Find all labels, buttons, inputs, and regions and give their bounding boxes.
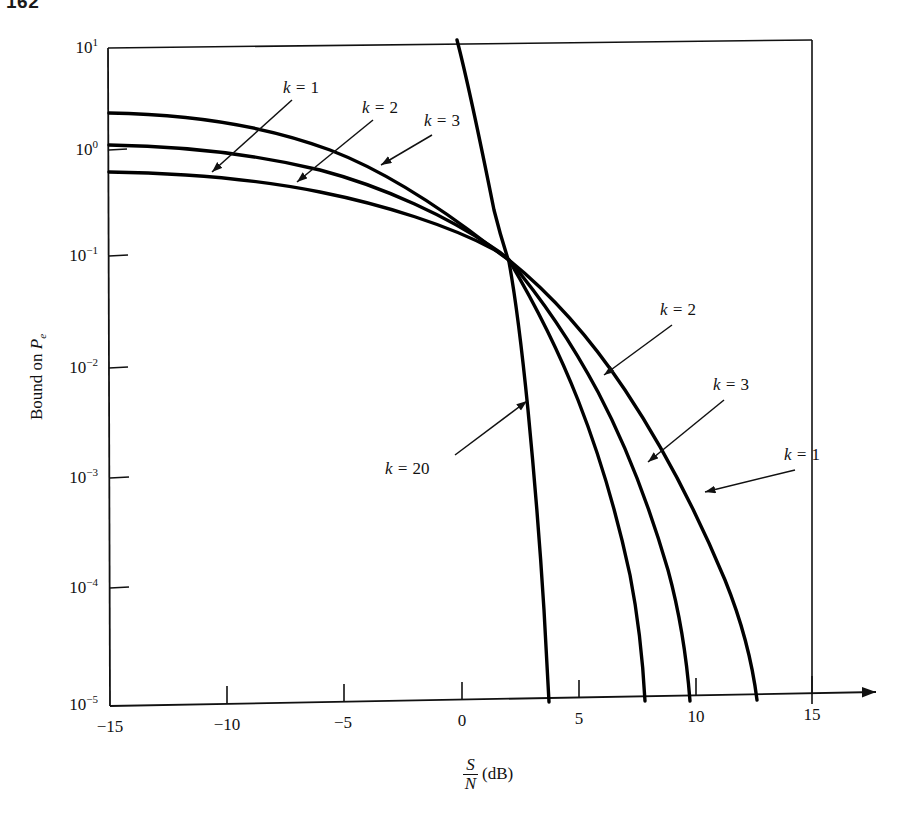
y-tick-label-1e-1: 10−1 (33, 247, 98, 264)
curve-k3 (109, 172, 645, 701)
x-tick-label-5: 5 (561, 710, 597, 727)
x-tick-label-m5: −5 (317, 714, 369, 731)
x-axis-title: S N (dB) (398, 757, 578, 794)
annotation-k1-right: k = 1 (784, 446, 820, 463)
y-tick-label-1e0: 100 (40, 141, 98, 158)
y-tick-label-1e-5: 10−5 (33, 696, 98, 713)
fraction-denominator: N (463, 775, 478, 793)
annotation-k3-upper-left: k = 3 (424, 112, 460, 129)
x-tick-label-10: 10 (674, 708, 718, 725)
annotation-k1-upper-left: k = 1 (283, 79, 319, 96)
x-axis-fraction: S N (463, 756, 478, 793)
y-tick-1e-3 (110, 477, 129, 478)
y-tick-1e0 (109, 149, 127, 150)
x-axis-units: (dB) (482, 764, 513, 783)
fraction-numerator: S (463, 756, 478, 774)
y-tick-1e-2 (109, 367, 128, 368)
data-curves (109, 40, 757, 702)
y-tick-label-1e-4: 10−4 (33, 579, 98, 596)
y-tick-label-1e1: 101 (40, 39, 98, 56)
annotation-k2-upper-left: k = 2 (362, 99, 398, 116)
x-tick-label-0: 0 (444, 712, 480, 729)
x-axis-line (110, 692, 876, 706)
leader-k20 (455, 401, 527, 455)
x-tick-label-15: 15 (790, 706, 834, 723)
x-tick-label-m15: −15 (82, 718, 138, 735)
curve-k1 (109, 113, 757, 700)
y-tick-marks (109, 149, 129, 588)
leader-k3-left (381, 135, 432, 165)
axes-frame (108, 40, 876, 706)
annotation-k3-right: k = 3 (713, 376, 749, 393)
x-tick-label-m10: −10 (199, 716, 255, 733)
figure-container: 162 (0, 0, 924, 836)
leader-k3-right (648, 400, 724, 462)
y-axis-title: Bound on Pe (28, 334, 45, 420)
annotation-k20: k = 20 (385, 460, 430, 477)
leader-k1-right (705, 470, 795, 492)
y-tick-label-1e-3: 10−3 (33, 469, 98, 486)
annotation-k2-right: k = 2 (660, 301, 696, 318)
y-tick-1e-1 (109, 255, 128, 256)
curve-k20 (457, 40, 549, 702)
y-tick-1e-4 (110, 587, 129, 588)
leader-k2-right (604, 325, 672, 375)
curve-k2 (109, 145, 690, 701)
x-tick-marks (227, 676, 812, 704)
annotation-leaders (212, 100, 795, 492)
